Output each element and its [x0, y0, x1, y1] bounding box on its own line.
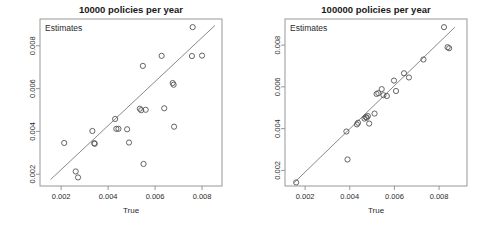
data-point — [75, 175, 80, 180]
x-tick-label: 0.008 — [193, 192, 212, 201]
data-point — [159, 53, 164, 58]
x-axis-label: True — [123, 206, 140, 215]
data-point — [384, 93, 389, 98]
y-tick-label: 0.008 — [28, 36, 37, 55]
plot-frame — [285, 19, 467, 186]
y-tick-label: 0.008 — [273, 36, 282, 55]
data-point — [381, 93, 386, 98]
panel-title: 100000 policies per year — [321, 4, 431, 15]
panel-title: 10000 policies per year — [79, 4, 183, 15]
reference-line — [51, 25, 215, 179]
y-tick-label: 0.004 — [273, 119, 282, 138]
data-point — [171, 124, 176, 129]
y-tick-label: 0.002 — [273, 161, 282, 180]
x-tick-label: 0.002 — [52, 192, 71, 201]
y-axis-label: Estimates — [45, 23, 82, 33]
data-point — [367, 121, 372, 126]
panel-10000-policies: 10000 policies per year0.0020.0040.0060.… — [0, 0, 245, 238]
data-point — [447, 46, 452, 51]
x-tick-label: 0.006 — [385, 192, 404, 201]
data-point — [401, 71, 406, 76]
x-axis-label: True — [368, 206, 385, 215]
panel-1-canvas: 100000 policies per year0.0020.0040.0060… — [245, 0, 490, 238]
data-point — [372, 111, 377, 116]
data-point — [171, 82, 176, 87]
scatter-plot-figure: 10000 policies per year0.0020.0040.0060.… — [0, 0, 490, 238]
data-point — [345, 157, 350, 162]
data-point — [140, 63, 145, 68]
reference-line — [294, 27, 455, 183]
panel-0-canvas: 10000 policies per year0.0020.0040.0060.… — [0, 0, 245, 238]
data-point — [189, 53, 194, 58]
data-point — [393, 88, 398, 93]
data-point — [199, 53, 204, 58]
data-point — [441, 25, 446, 30]
y-tick-label: 0.006 — [28, 79, 37, 98]
data-point — [90, 128, 95, 133]
data-point — [73, 169, 78, 174]
x-tick-label: 0.008 — [430, 192, 449, 201]
x-tick-label: 0.004 — [340, 192, 359, 201]
data-point — [125, 127, 130, 132]
data-point — [162, 106, 167, 111]
data-point — [190, 25, 195, 30]
panel-100000-policies: 100000 policies per year0.0020.0040.0060… — [245, 0, 490, 238]
y-tick-label: 0.002 — [28, 165, 37, 184]
x-tick-label: 0.004 — [99, 192, 118, 201]
data-point-group — [294, 25, 452, 186]
x-tick-label: 0.006 — [146, 192, 165, 201]
data-point — [126, 140, 131, 145]
data-point — [391, 78, 396, 83]
data-point — [406, 75, 411, 80]
x-tick-label: 0.002 — [296, 192, 315, 201]
data-point — [137, 106, 142, 111]
y-tick-label: 0.006 — [273, 77, 282, 96]
y-axis-label: Estimates — [290, 23, 327, 33]
data-point — [62, 140, 67, 145]
data-point — [141, 161, 146, 166]
data-point — [379, 87, 384, 92]
y-tick-label: 0.004 — [28, 122, 37, 141]
